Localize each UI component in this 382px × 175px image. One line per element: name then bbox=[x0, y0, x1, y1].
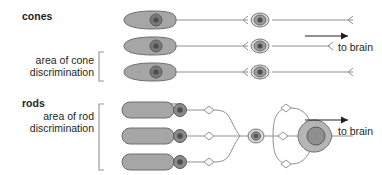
bipolar-nucleolus-1 bbox=[257, 17, 262, 22]
cone-area-bracket bbox=[99, 52, 104, 81]
diagram-canvas bbox=[0, 0, 382, 175]
rod-receptors bbox=[122, 102, 187, 170]
cone-nucleolus-3 bbox=[153, 69, 158, 74]
rod-nucleolus-2 bbox=[177, 133, 183, 139]
rod-first-convergence bbox=[187, 106, 264, 166]
bipolar-nucleolus-3 bbox=[257, 69, 262, 74]
cone-nucleolus-2 bbox=[153, 43, 158, 48]
rod-nucleolus-3 bbox=[177, 159, 183, 165]
rod-nucleolus-1 bbox=[177, 107, 183, 113]
retina-pathway-diagram: cones area of cone discrimination rods a… bbox=[0, 0, 382, 175]
rod-synapse-node-2 bbox=[204, 132, 214, 140]
cone-area-line-1: area of cone bbox=[10, 54, 94, 66]
cone-terminal-arrow-2 bbox=[328, 42, 333, 50]
rod-ganglion-nucleus bbox=[307, 127, 325, 145]
cone-row-1 bbox=[124, 11, 353, 29]
cone-row-2 bbox=[124, 37, 333, 55]
rod-converge-branch-1 bbox=[214, 110, 240, 136]
to-brain-label-rods: to brain bbox=[338, 125, 373, 137]
rod-area-bracket bbox=[99, 104, 104, 170]
rod-ganglion-node-lower bbox=[281, 160, 291, 168]
rod-area-line-1: area of rod bbox=[10, 110, 94, 122]
rod-receptor-2 bbox=[122, 128, 174, 144]
rod-converge-branch-3 bbox=[214, 136, 240, 162]
rods-label: rods bbox=[22, 97, 45, 109]
rod-ganglion-node-middle bbox=[278, 132, 288, 140]
rod-receptor-1 bbox=[122, 102, 174, 118]
cone-pathway-group bbox=[99, 11, 353, 81]
bipolar-nucleolus-2 bbox=[257, 43, 262, 48]
rod-ganglion-node-upper bbox=[281, 104, 291, 112]
rod-pathway-group bbox=[99, 102, 353, 170]
cone-area-label: area of cone discrimination bbox=[10, 54, 94, 79]
rod-bipolar-nucleolus bbox=[254, 134, 258, 138]
cone-area-line-2: discrimination bbox=[10, 66, 94, 78]
rod-synapse-node-3 bbox=[204, 158, 214, 166]
to-brain-label-cones: to brain bbox=[338, 41, 373, 53]
rod-receptor-3 bbox=[122, 154, 174, 170]
rod-synapse-node-1 bbox=[204, 106, 214, 114]
cone-row-3 bbox=[124, 63, 353, 81]
rod-area-label: area of rod discrimination bbox=[10, 110, 94, 135]
cone-nucleolus-1 bbox=[153, 17, 158, 22]
cones-label: cones bbox=[22, 10, 52, 22]
rod-area-line-2: discrimination bbox=[10, 122, 94, 134]
